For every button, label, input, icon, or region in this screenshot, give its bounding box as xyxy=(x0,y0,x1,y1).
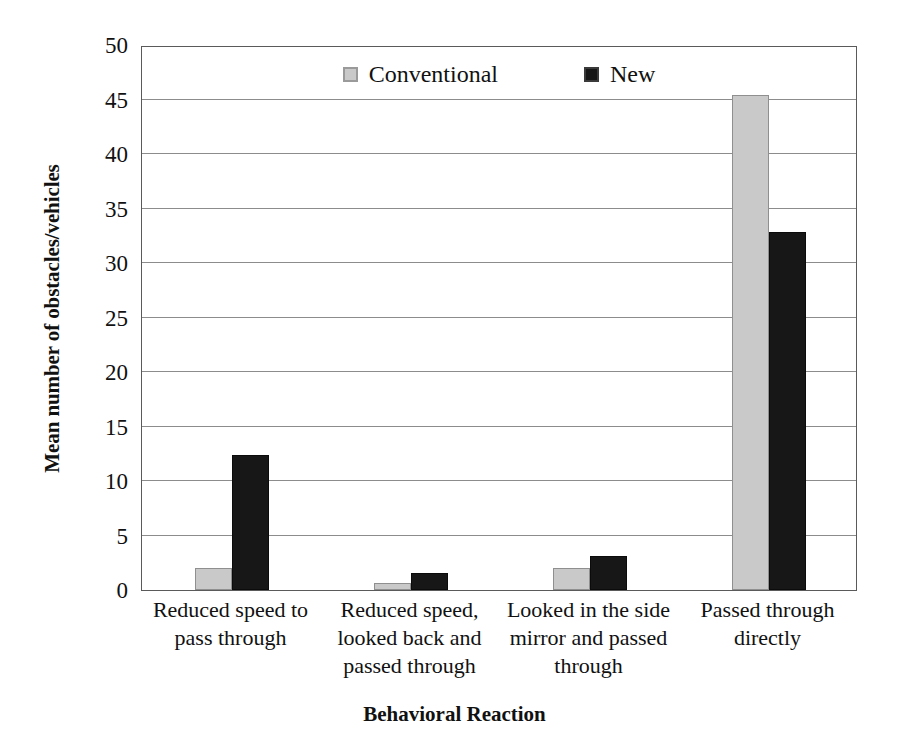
bars-layer xyxy=(142,47,856,590)
bar-new xyxy=(769,232,806,590)
bar-new xyxy=(411,573,448,590)
bar-new xyxy=(232,455,269,590)
x-axis-category-labels: Reduced speed to pass through Reduced sp… xyxy=(141,596,857,688)
legend-item-new[interactable]: New xyxy=(584,62,655,86)
y-axis-tick-label: 30 xyxy=(58,252,128,275)
y-axis-tick-label: 20 xyxy=(58,361,128,384)
y-axis-tick-label: 50 xyxy=(58,34,128,57)
bar-conventional xyxy=(195,568,232,590)
legend-item-conventional[interactable]: Conventional xyxy=(343,62,498,86)
y-axis-tick-label: 5 xyxy=(58,525,128,548)
y-axis-tick-label: 0 xyxy=(58,579,128,602)
y-axis-tick-label: 25 xyxy=(58,307,128,330)
bar-new xyxy=(590,556,627,590)
category-label: Reduced speed to pass through xyxy=(141,596,320,688)
x-axis-title: Behavioral Reaction xyxy=(0,702,909,727)
y-axis-tick-label: 45 xyxy=(58,89,128,112)
category-label: Reduced speed, looked back and passed th… xyxy=(320,596,499,688)
plot-area: Conventional New xyxy=(141,46,857,591)
bar-conventional xyxy=(732,95,769,590)
category-label: Passed through directly xyxy=(678,596,857,688)
legend-label-conventional: Conventional xyxy=(369,62,498,86)
y-axis-tick-label: 40 xyxy=(58,143,128,166)
bar-chart-figure: Mean number of obstacles/vehicles 051015… xyxy=(0,0,909,734)
bar-conventional xyxy=(553,568,590,590)
legend-label-new: New xyxy=(610,62,655,86)
black-square-icon xyxy=(584,67,599,82)
gray-square-icon xyxy=(343,67,358,82)
y-axis-tick-label: 15 xyxy=(58,416,128,439)
bar-conventional xyxy=(374,583,411,590)
category-label: Looked in the side mirror and passed thr… xyxy=(499,596,678,688)
y-axis-tick-label: 35 xyxy=(58,198,128,221)
y-axis-tick-label: 10 xyxy=(58,470,128,493)
